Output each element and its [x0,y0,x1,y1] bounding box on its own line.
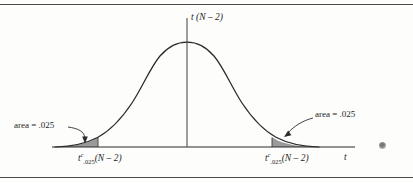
x-axis-label: t [344,153,347,163]
curve-label: t (N – 2) [191,13,223,23]
right-annotation-arrow [288,118,313,133]
t-distribution-figure: t (N – 2) area = .025 area = .025 tc.025… [0,0,413,183]
left-area-annotation: area = .025 [14,121,54,130]
right-annotation-arrowhead [284,131,291,137]
upper-critical-value-label: tc.025(N – 2) [265,152,309,166]
upper-crit-argument: (N – 2) [282,153,309,163]
lower-crit-subscript: .025 [83,158,94,165]
upper-crit-subscript: .025 [270,158,281,165]
lower-crit-argument: (N – 2) [95,153,122,163]
scan-artifact-speck [379,142,386,149]
left-annotation-arrow [68,127,85,138]
lower-critical-value-label: tc.025(N – 2) [78,152,122,166]
right-area-annotation: area = .025 [315,110,355,119]
lower-tail-shaded-region [55,137,98,147]
distribution-plot [0,0,413,183]
